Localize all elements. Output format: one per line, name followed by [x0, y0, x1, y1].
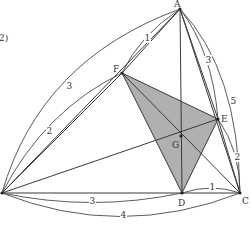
point-f [120, 71, 123, 74]
caption-fragment: 2) [0, 33, 8, 43]
point-c [238, 191, 241, 194]
point-label-e: E [221, 114, 228, 124]
point-label-a: A [173, 0, 181, 9]
point-label-c: C [242, 196, 249, 206]
point-label-d: D [178, 198, 185, 208]
point-d [180, 191, 183, 194]
segment-label: 3 [90, 196, 96, 206]
points [0, 7, 241, 194]
shaded-triangle-def [122, 73, 218, 193]
segment-label: 1 [210, 182, 216, 192]
segment-label: 5 [231, 96, 237, 106]
point-b [0, 191, 3, 194]
point-label-g: G [172, 140, 179, 150]
point-label-f: F [113, 64, 119, 74]
point-g [179, 134, 182, 137]
segment-label: 3 [67, 81, 73, 91]
geometry-diagram: 312352134 ACDEFG 2) [0, 0, 251, 226]
segment-label: 1 [145, 33, 151, 43]
point-e [216, 117, 219, 120]
segment-label: 4 [121, 210, 127, 220]
line-a-e [180, 9, 218, 119]
segment-label: 2 [235, 152, 241, 162]
segment-label: 3 [206, 55, 212, 65]
segment-label: 2 [47, 126, 53, 136]
line-b-f [2, 73, 122, 193]
